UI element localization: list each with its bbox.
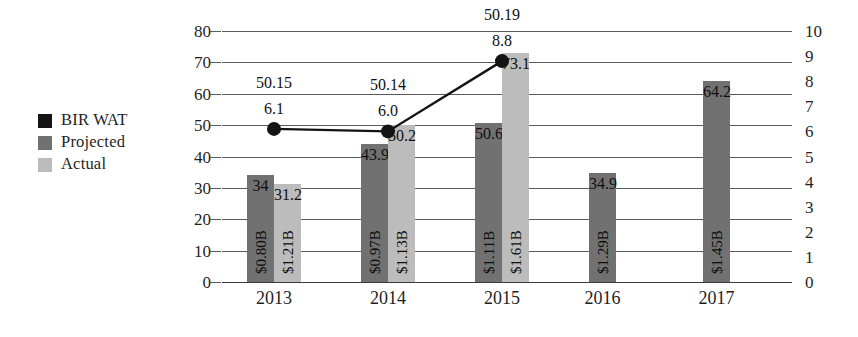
bar-value-label: 64.2 xyxy=(703,84,730,100)
bar-projected-2015: 50.6$1.11B xyxy=(475,123,502,282)
bar-actual-2013: 31.2$1.21B xyxy=(274,184,301,282)
legend-item-actual: Actual xyxy=(38,154,188,175)
left-axis-tick-label: 60 xyxy=(194,85,211,102)
right-axis-tick-label: 3 xyxy=(805,198,814,215)
left-axis-tick-mark xyxy=(210,94,221,95)
bir-wat-line-path xyxy=(274,61,502,131)
legend-label-bir-wat: BIR WAT xyxy=(61,112,128,129)
bir-wat-top-label: 50.19 xyxy=(484,7,520,23)
legend-swatch-projected xyxy=(38,136,52,150)
right-axis-tick-label: 6 xyxy=(805,123,814,140)
left-axis-tick-label: 80 xyxy=(194,23,211,40)
left-axis-tick-label: 20 xyxy=(194,211,211,228)
chart-figure: BIR WAT Projected Actual 010203040506070… xyxy=(0,0,858,337)
left-axis-tick-label: 50 xyxy=(194,117,211,134)
left-axis-tick-mark xyxy=(210,219,221,220)
bar-value-label: 50.2 xyxy=(388,128,415,144)
right-axis-tick-label: 1 xyxy=(805,248,814,265)
bar-projected-2017: 64.2$1.45B xyxy=(703,81,730,282)
legend-item-bir-wat: BIR WAT xyxy=(38,110,188,131)
plot-area: 01020304050607080 012345678910 34$0.80B3… xyxy=(222,31,792,282)
bar-amount-label: $1.21B xyxy=(280,230,295,274)
right-axis-tick-label: 2 xyxy=(805,223,814,240)
right-axis-tick-label: 7 xyxy=(805,98,814,115)
bir-wat-top-label: 50.14 xyxy=(370,77,406,93)
left-axis-tick-mark xyxy=(210,157,221,158)
category-label-2014: 2014 xyxy=(370,289,406,307)
bar-value-label: 43.9 xyxy=(361,147,388,163)
legend-label-actual: Actual xyxy=(61,156,106,173)
legend-swatch-actual xyxy=(38,158,52,172)
right-axis-tick-label: 5 xyxy=(805,148,814,165)
bar-amount-label: $0.97B xyxy=(367,230,382,274)
bir-wat-point-label: 8.8 xyxy=(492,33,512,49)
left-axis-tick-mark xyxy=(210,282,221,283)
bar-amount-label: $1.11B xyxy=(481,231,496,274)
bar-value-label: 50.6 xyxy=(475,126,502,142)
category-label-2015: 2015 xyxy=(484,289,520,307)
bar-projected-2013: 34$0.80B xyxy=(247,175,274,282)
bir-wat-top-label: 50.15 xyxy=(256,75,292,91)
chart-legend: BIR WAT Projected Actual xyxy=(38,110,188,176)
bar-amount-label: $1.45B xyxy=(709,230,724,274)
bar-amount-label: $1.13B xyxy=(394,230,409,274)
bar-projected-2014: 43.9$0.97B xyxy=(361,144,388,282)
bar-value-label: 31.2 xyxy=(274,187,301,203)
right-axis-tick-label: 9 xyxy=(805,48,814,65)
right-axis-tick-label: 4 xyxy=(805,173,814,190)
right-axis-tick-label: 0 xyxy=(805,274,814,291)
left-axis-tick-label: 30 xyxy=(194,179,211,196)
gridline xyxy=(222,282,792,283)
left-axis-tick-mark xyxy=(210,62,221,63)
bar-amount-label: $1.29B xyxy=(595,230,610,274)
left-axis-tick-mark xyxy=(210,125,221,126)
bir-wat-point-label: 6.1 xyxy=(264,101,284,117)
category-label-2016: 2016 xyxy=(585,289,621,307)
left-axis-tick-mark xyxy=(210,188,221,189)
bir-wat-point-label: 6.0 xyxy=(378,103,398,119)
bar-actual-2014: 50.2$1.13B xyxy=(388,125,415,283)
bir-wat-data-point xyxy=(267,122,281,136)
left-axis-tick-mark xyxy=(210,31,221,32)
category-label-2013: 2013 xyxy=(256,289,292,307)
left-axis-tick-label: 10 xyxy=(194,242,211,259)
category-label-2017: 2017 xyxy=(699,289,735,307)
bar-amount-label: $0.80B xyxy=(253,230,268,274)
legend-item-projected: Projected xyxy=(38,132,188,153)
bar-value-label: 34.9 xyxy=(589,176,616,192)
right-axis-tick-label: 10 xyxy=(805,23,822,40)
bar-actual-2015: 73.1$1.61B xyxy=(502,53,529,282)
left-axis-tick-mark xyxy=(210,251,221,252)
left-axis-tick-label: 40 xyxy=(194,148,211,165)
bar-value-label: 73.1 xyxy=(502,56,529,72)
left-axis-tick-label: 70 xyxy=(194,54,211,71)
legend-swatch-bir-wat xyxy=(38,114,52,128)
bar-value-label: 34 xyxy=(247,178,274,194)
right-axis-tick-label: 8 xyxy=(805,73,814,90)
legend-label-projected: Projected xyxy=(61,134,125,151)
bar-projected-2016: 34.9$1.29B xyxy=(589,173,616,282)
bar-amount-label: $1.61B xyxy=(508,230,523,274)
